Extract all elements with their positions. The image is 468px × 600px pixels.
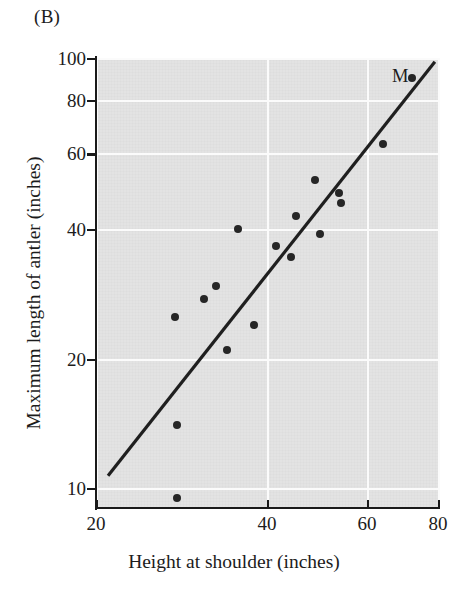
- y-axis-tick: [87, 58, 95, 60]
- y-axis-tick-label: 100: [40, 49, 86, 68]
- y-axis-tick: [87, 359, 95, 361]
- x-axis-tick-label: 60: [342, 514, 392, 533]
- x-axis-tick: [96, 500, 98, 509]
- annotation-label-m: M: [392, 66, 408, 87]
- y-axis-tick: [87, 153, 95, 155]
- regression-line: [96, 58, 438, 508]
- y-axis-tick-label: 10: [40, 479, 86, 498]
- y-axis-tick: [87, 229, 95, 231]
- y-axis-tick: [87, 488, 95, 490]
- y-axis-tick-label: 20: [40, 350, 86, 369]
- x-axis-tick: [267, 500, 269, 509]
- panel-label: (B): [34, 6, 60, 28]
- x-axis-tick-label: 80: [413, 514, 463, 533]
- x-axis-tick: [438, 500, 440, 509]
- y-axis-tick: [87, 100, 95, 102]
- figure-panel-b: (B) M 1020406080100 20406080 Maximum len…: [0, 0, 468, 600]
- y-axis-tick-label: 40: [40, 220, 86, 239]
- y-axis-tick-label: 80: [40, 91, 86, 110]
- x-axis-tick-label: 40: [242, 514, 292, 533]
- x-axis-tick: [367, 500, 369, 509]
- y-axis-tick-label: 60: [40, 144, 86, 163]
- gridline-vertical: [438, 58, 440, 508]
- x-axis-tick-label: 20: [71, 514, 121, 533]
- y-axis-title: Maximum length of antler (inches): [23, 93, 45, 493]
- y-axis-line: [95, 56, 97, 510]
- plot-area: M: [96, 58, 438, 508]
- x-axis-title: Height at shoulder (inches): [0, 551, 468, 573]
